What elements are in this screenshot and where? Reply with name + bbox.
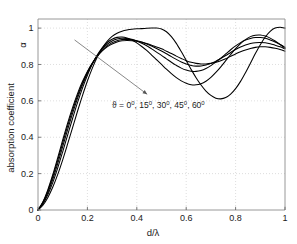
angle-annotation: ϑ = 00, 150, 300, 450, 600 (112, 100, 205, 110)
y-tick-label: 1 (28, 23, 33, 33)
figure-container: 00.20.40.60.8100.20.40.60.81 d/λ absorpt… (0, 0, 297, 244)
y-tick-label: 0.6 (21, 96, 34, 106)
y-axis-title: absorption coefficient (5, 83, 16, 173)
x-tick-label: 0.6 (180, 213, 193, 223)
y-tick-label: 0.4 (21, 132, 34, 142)
x-axis-title: d/λ (147, 227, 160, 238)
y-tick-label: 0 (28, 205, 33, 215)
chart-background (0, 0, 297, 244)
x-tick-label: 0.4 (131, 213, 144, 223)
x-tick-label: 1 (282, 213, 287, 223)
y-tick-label: 0.2 (21, 169, 34, 179)
y-axis-symbol: α (17, 42, 28, 48)
x-tick-label: 0 (35, 213, 40, 223)
y-tick-label: 0.8 (21, 60, 34, 70)
x-tick-label: 0.2 (81, 213, 94, 223)
absorption-coefficient-chart: 00.20.40.60.8100.20.40.60.81 d/λ absorpt… (0, 0, 297, 244)
x-tick-label: 0.8 (229, 213, 242, 223)
